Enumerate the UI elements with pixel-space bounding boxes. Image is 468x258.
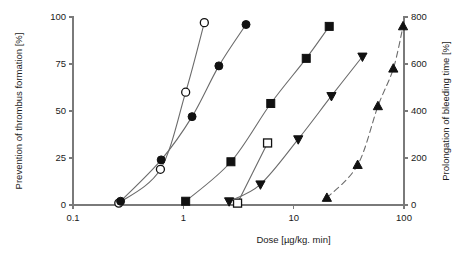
x-tick-label: 10 bbox=[288, 212, 299, 223]
right-tick-label: 200 bbox=[411, 152, 427, 163]
marker-triangle-up-filled bbox=[373, 101, 382, 109]
series-filled-square bbox=[182, 22, 334, 205]
series-filled-circle bbox=[117, 21, 250, 206]
x-tick-label: 1 bbox=[181, 212, 186, 223]
marker-square-open bbox=[264, 139, 272, 147]
marker-triangle-up-filled bbox=[389, 64, 398, 72]
marker-triangle-up-filled bbox=[398, 21, 407, 29]
marker-triangle-up-filled bbox=[353, 160, 362, 168]
left-tick-label: 25 bbox=[55, 152, 66, 163]
x-axis-title: Dose [µg/kg. min] bbox=[256, 234, 330, 245]
x-tick-label: 100 bbox=[396, 212, 412, 223]
marker-square-filled bbox=[267, 99, 275, 107]
left-tick-label: 0 bbox=[61, 199, 66, 210]
series-line bbox=[121, 25, 246, 202]
right-axis-title: Prolongation of bleeding time [%] bbox=[440, 41, 451, 180]
marker-circle-filled bbox=[188, 113, 196, 121]
left-axis-title: Prevention of thrombus formation [%] bbox=[13, 33, 24, 190]
series-line bbox=[238, 143, 268, 203]
series-filled-triangle-down bbox=[225, 53, 368, 206]
marker-circle-filled bbox=[215, 62, 223, 70]
marker-square-filled bbox=[302, 54, 310, 62]
right-tick-label: 800 bbox=[411, 11, 427, 22]
left-tick-label: 50 bbox=[55, 105, 66, 116]
marker-circle-filled bbox=[242, 21, 250, 29]
right-tick-label: 600 bbox=[411, 58, 427, 69]
series-filled-triangle-up bbox=[322, 21, 407, 201]
marker-circle-filled bbox=[157, 156, 165, 164]
x-tick-label: 0.1 bbox=[66, 212, 79, 223]
left-tick-label: 75 bbox=[55, 58, 66, 69]
marker-square-filled bbox=[227, 158, 235, 166]
series-line bbox=[327, 26, 403, 198]
marker-square-open bbox=[234, 199, 242, 207]
dose-response-plot: 025507510002004006008000.1110100Preventi… bbox=[0, 0, 468, 258]
marker-circle-open bbox=[182, 88, 190, 96]
right-tick-label: 400 bbox=[411, 105, 427, 116]
marker-circle-open bbox=[200, 19, 208, 27]
marker-circle-filled bbox=[117, 197, 125, 205]
left-tick-label: 100 bbox=[50, 11, 66, 22]
series-line bbox=[186, 26, 330, 201]
chart-figure: 025507510002004006008000.1110100Preventi… bbox=[0, 0, 468, 258]
marker-triangle-down-filled bbox=[256, 181, 265, 189]
marker-square-filled bbox=[325, 22, 333, 30]
marker-circle-open bbox=[156, 165, 164, 173]
marker-square-filled bbox=[182, 197, 190, 205]
right-tick-label: 0 bbox=[411, 199, 416, 210]
